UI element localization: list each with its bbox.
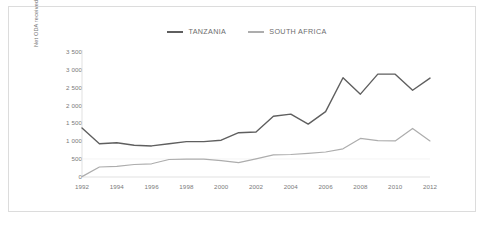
series-lines (82, 74, 430, 177)
axis-lines (82, 50, 430, 177)
series-line-south-africa (82, 128, 430, 176)
chart-figure: TANZANIA SOUTH AFRICA Net ODA received (… (0, 0, 494, 226)
series-line-tanzania (82, 74, 430, 146)
chart-plot-area (0, 0, 494, 226)
